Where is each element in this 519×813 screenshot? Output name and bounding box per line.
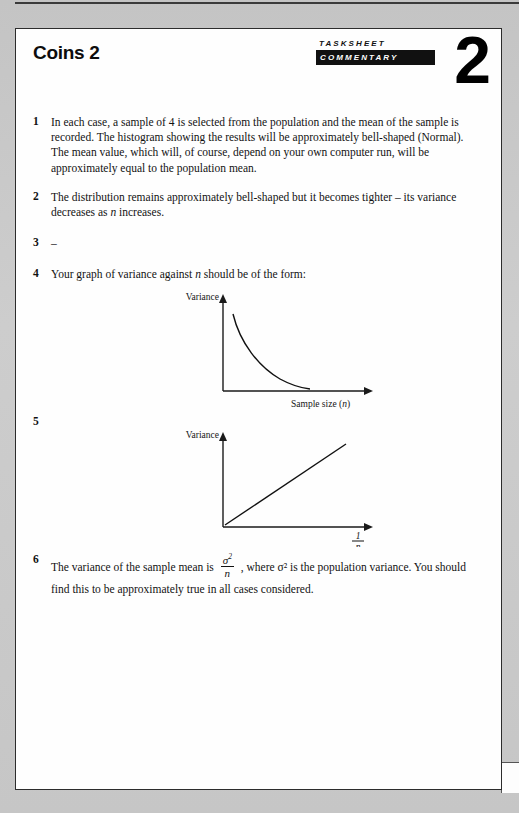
y-axis-label: Variance (186, 292, 219, 302)
list-item: 4 Your graph of variance against n shoul… (16, 267, 501, 282)
list-item: 6 The variance of the sample mean is σ2 … (16, 553, 501, 601)
tasksheet-commentary-badge: TASKSHEET COMMENTARY (316, 39, 435, 65)
y-axis-label: Variance (186, 430, 219, 440)
variance-fraction: σ2 n (221, 553, 234, 580)
x-axis-label-close: ) (347, 399, 350, 410)
item-text: The variance of the sample mean is σ2 n … (51, 553, 501, 601)
list-item: 2 The distribution remains approximately… (16, 190, 501, 220)
fraction-numerator-exponent: 2 (228, 552, 232, 561)
item-6-text-before: The variance of the sample mean is (51, 561, 214, 573)
decay-curve (233, 314, 310, 389)
adjacent-page-edge (501, 762, 519, 793)
fraction-numerator: σ2 (221, 553, 234, 567)
page-header: Coins 2 TASKSHEET COMMENTARY 2 (16, 29, 501, 109)
item-text: Your graph of variance against n should … (51, 267, 501, 282)
x-axis-label-denominator: n (356, 542, 361, 547)
linear-trend-line (225, 444, 346, 525)
item-text: In each case, a sample of 4 is selected … (51, 115, 501, 176)
item-number: 6 (33, 553, 39, 565)
item-number: 4 (33, 267, 39, 279)
tasksheet-label: TASKSHEET (316, 39, 435, 48)
list-item: 1 In each case, a sample of 4 is selecte… (16, 115, 501, 176)
y-axis-arrowhead (219, 294, 227, 303)
item-text: – (51, 236, 501, 251)
item-text: The distribution remains approximately b… (51, 190, 501, 220)
y-axis-arrowhead (219, 432, 227, 441)
worksheet-page: Coins 2 TASKSHEET COMMENTARY 2 1 In each… (15, 28, 502, 790)
item-number: 1 (33, 115, 39, 127)
item-number: 2 (33, 190, 39, 202)
page-title: Coins 2 (33, 42, 100, 64)
figure-2-svg: Variance 1 n (16, 415, 503, 547)
fraction-denominator: n (221, 567, 234, 579)
x-axis-arrowhead (364, 387, 373, 395)
x-axis-label-numerator: 1 (356, 531, 361, 541)
item-number: 3 (33, 236, 39, 248)
x-axis-label: Sample size (n) (291, 399, 350, 410)
commentary-label: COMMENTARY (316, 50, 435, 65)
top-rule-divider (15, 2, 519, 4)
worksheet-content: 1 In each case, a sample of 4 is selecte… (16, 115, 501, 614)
list-item: 3 – (16, 236, 501, 251)
figure-variance-vs-sample-size: Variance Sample size (n) (16, 287, 501, 415)
x-axis-arrowhead (364, 523, 373, 531)
sheet-number: 2 (454, 27, 489, 93)
figure-variance-vs-reciprocal-n: Variance 1 n (16, 415, 501, 547)
figure-1-svg: Variance Sample size (n) (16, 287, 503, 415)
